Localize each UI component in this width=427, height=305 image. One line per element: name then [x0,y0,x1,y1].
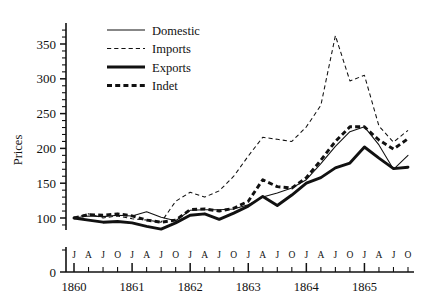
x-axis: JAJOJAJOJAJOJAJOJAJOJAJO 186018611862186… [62,250,415,294]
legend-label-indet: Indet [152,79,178,93]
x-year-label: 1864 [294,280,320,294]
chart-legend: DomesticImportsExportsIndet [107,24,200,94]
x-month-label: J [246,250,250,260]
y-tick-label-300: 300 [37,71,57,86]
x-month-label: J [363,250,367,260]
y-axis-ticks [60,30,66,272]
x-month-label: A [376,250,383,260]
x-month-label: O [346,250,353,260]
x-month-label: J [304,250,308,260]
x-month-label: J [130,250,134,260]
x-month-label: A [317,250,324,260]
data-series-group [74,36,408,229]
x-year-label: 1861 [120,280,145,294]
x-month-label: A [143,250,150,260]
x-month-label: O [172,250,179,260]
x-month-label: J [275,250,279,260]
x-year-label: 1865 [352,280,377,294]
x-year-label: 1862 [178,280,203,294]
price-index-line-chart: 0100150200250300350 Prices JAJOJAJOJAJOJ… [0,0,427,305]
x-month-label: A [85,250,92,260]
legend-label-imports: Imports [152,42,191,56]
x-month-label: J [159,250,163,260]
y-tick-label-350: 350 [37,37,57,52]
x-axis-month-labels: JAJOJAJOJAJOJAJOJAJOJAJO [72,250,411,260]
x-year-label: 1863 [236,280,261,294]
x-month-label: A [259,250,266,260]
x-axis-year-labels: 186018611862186318641865 [62,280,377,294]
x-month-label: A [201,250,208,260]
y-tick-label-200: 200 [37,141,57,156]
y-tick-label-250: 250 [37,106,57,121]
x-axis-ticks [74,263,408,272]
x-month-label: O [230,250,237,260]
series-line-domestic [74,127,408,221]
series-line-indet [74,127,408,222]
x-month-label: J [188,250,192,260]
x-month-label: J [72,250,76,260]
y-tick-label-150: 150 [37,176,57,191]
x-month-label: O [405,250,412,260]
x-month-label: J [334,250,338,260]
y-axis-title: Prices [11,135,25,166]
chart-plot-area: 0100150200250300350 Prices JAJOJAJOJAJOJ… [0,0,427,305]
legend-label-domestic: Domestic [152,24,200,38]
x-month-label: J [101,250,105,260]
legend-label-exports: Exports [152,61,191,75]
y-tick-label-100: 100 [37,211,57,226]
y-axis: 0100150200250300350 Prices [11,23,66,280]
y-axis-tick-labels: 0100150200250300350 [37,37,57,280]
x-month-label: O [288,250,295,260]
x-year-label: 1860 [62,280,87,294]
x-month-label: J [392,250,396,260]
x-month-label: J [217,250,221,260]
y-tick-label-0: 0 [50,265,57,280]
x-month-label: O [114,250,121,260]
